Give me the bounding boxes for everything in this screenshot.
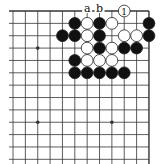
black-stone (118, 67, 130, 79)
black-stone (143, 30, 155, 42)
black-stone (69, 55, 81, 67)
white-stone (81, 55, 93, 67)
black-stone (69, 17, 81, 29)
point-labels: ab (82, 2, 104, 15)
white-stone (94, 55, 106, 67)
star-point (36, 120, 40, 124)
black-stone (81, 67, 93, 79)
black-stone (57, 30, 69, 42)
white-stone (106, 42, 118, 54)
white-stone (81, 30, 93, 42)
black-stone (106, 67, 118, 79)
white-stone (81, 17, 93, 29)
white-stone (106, 55, 118, 67)
white-stone (118, 30, 130, 42)
black-stone (131, 42, 143, 54)
white-stone (81, 42, 93, 54)
black-stone (118, 42, 130, 54)
black-stone (94, 67, 106, 79)
black-stone (69, 30, 81, 42)
star-point (110, 120, 114, 124)
star-point (36, 46, 40, 50)
black-stone (94, 42, 106, 54)
stones: 1 (57, 5, 155, 79)
black-stone (94, 30, 106, 42)
white-stone (106, 17, 118, 29)
go-board: ab 1 (0, 0, 160, 164)
black-stone (69, 67, 81, 79)
white-stone (131, 30, 143, 42)
point-label: a (84, 2, 91, 15)
stone-move-number: 1 (121, 7, 127, 17)
black-stone (143, 17, 155, 29)
point-label: b (96, 2, 103, 15)
black-stone (94, 17, 106, 29)
